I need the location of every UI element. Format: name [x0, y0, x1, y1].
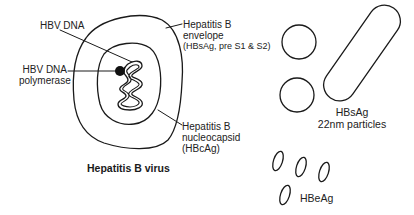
- envelope-outline: [73, 16, 182, 149]
- nucleocapsid-label: Hepatitis B nucleocapsid (HBcAg): [182, 121, 240, 154]
- envelope-line-3: (HBsAg, pre S1 & S2): [183, 41, 271, 52]
- hbsag-sphere-2: [280, 78, 314, 112]
- polymerase-line-2: polymerase: [19, 75, 67, 86]
- hbsag-sphere-1: [282, 25, 316, 59]
- nucleocapsid-line-2: nucleocapsid: [182, 132, 240, 143]
- hbeag-oval-4: [278, 184, 293, 206]
- hbsag-label: HBsAg 22nm particles: [312, 106, 392, 130]
- virus-title: Hepatitis B virus: [87, 162, 170, 174]
- hbeag-oval-1: [271, 150, 286, 172]
- hbv-dna-label: HBV DNA: [40, 21, 84, 31]
- polymerase-label: HBV DNA polymerase: [19, 64, 67, 86]
- polymerase-line-1: HBV DNA: [19, 64, 67, 75]
- envelope-line-1: Hepatitis B: [183, 19, 271, 30]
- hbeag-label: HBeAg: [300, 192, 333, 204]
- envelope-label: Hepatitis B envelope (HBsAg, pre S1 & S2…: [183, 19, 271, 52]
- hbeag-text: HBeAg: [300, 192, 333, 204]
- hbeag-oval-3: [317, 161, 332, 183]
- hbsag-line-1: HBsAg: [312, 106, 392, 118]
- hbsag-line-2: 22nm particles: [312, 118, 392, 130]
- hbv-dna-text: HBV DNA: [40, 21, 84, 31]
- hbeag-oval-2: [294, 156, 309, 178]
- nucleocapsid-line-3: (HBcAg): [182, 143, 240, 154]
- polymerase-tick: [124, 64, 128, 68]
- hbv-dna-leader: [60, 30, 132, 62]
- polymerase-dot: [115, 66, 125, 76]
- hbsag-filament: [317, 0, 406, 107]
- nucleocapsid-line-1: Hepatitis B: [182, 121, 240, 132]
- envelope-line-2: envelope: [183, 30, 271, 41]
